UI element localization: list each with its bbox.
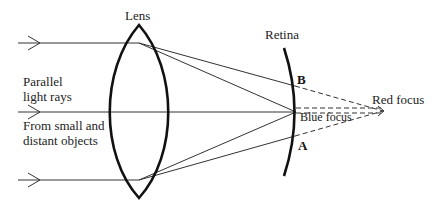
blue-ray-bottom	[139, 112, 296, 180]
incoming-rays	[18, 43, 296, 180]
blue-focus-label: Blue focus	[300, 110, 352, 124]
point-b-label: B	[297, 72, 306, 87]
parallel-label-line2: light rays	[23, 89, 72, 104]
red-focus-label: Red focus	[372, 92, 424, 107]
lens-label: Lens	[125, 8, 150, 23]
retina-label: Retina	[265, 27, 299, 42]
point-a-label: A	[298, 138, 308, 153]
red-ray-top	[139, 43, 295, 86]
parallel-label-line1: Parallel	[23, 74, 63, 89]
from-label-line1: From small and	[23, 118, 105, 133]
blue-ray-top	[139, 43, 296, 112]
dashed-top	[295, 86, 383, 111]
chromatic-aberration-diagram: Lens Retina Parallel light rays From sma…	[0, 0, 442, 207]
from-label-line2: distant objects	[23, 133, 98, 148]
